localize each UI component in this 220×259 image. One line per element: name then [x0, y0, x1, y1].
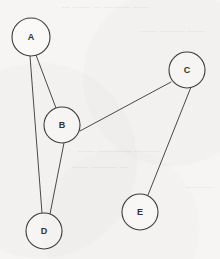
edge-a-d	[30, 56, 42, 213]
edge-b-c	[80, 82, 171, 131]
graph-diagram-canvas: — —— — ——— —— —— ——— —— —— ———— ——— —— —…	[0, 0, 220, 259]
node-a[interactable]: A	[12, 18, 50, 56]
node-group: A B C D E	[12, 18, 205, 249]
graph-svg: A B C D E	[0, 0, 220, 259]
node-c[interactable]: C	[169, 52, 205, 88]
node-d-label: D	[41, 226, 48, 236]
node-c-label: C	[184, 65, 191, 75]
edge-c-e	[148, 87, 191, 195]
edge-a-b	[36, 55, 56, 108]
node-b-label: B	[59, 120, 66, 130]
node-d[interactable]: D	[26, 213, 62, 249]
node-b[interactable]: B	[44, 107, 80, 143]
node-e-label: E	[137, 207, 143, 217]
node-a-label: A	[28, 32, 35, 42]
node-e[interactable]: E	[122, 194, 158, 230]
edge-b-d	[50, 143, 64, 214]
